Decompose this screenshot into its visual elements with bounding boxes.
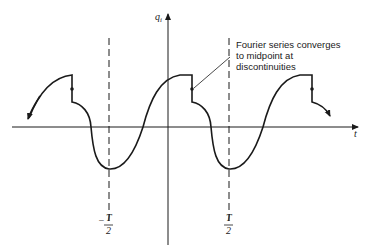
svg-text:T: T — [106, 212, 113, 223]
x-axis-label: t — [354, 128, 357, 139]
marker-neg-half-period: − T 2 — [98, 212, 113, 236]
annotation-leader — [194, 57, 230, 88]
annotation-text: Fourier series converges to midpoint at … — [236, 39, 343, 72]
midpoint-dot — [70, 87, 74, 91]
svg-text:T: T — [226, 212, 233, 223]
waveform-start-arrow — [28, 96, 40, 119]
waveform-segment-1 — [29, 75, 330, 169]
fourier-figure: qi t − T 2 T 2 Fourier series converges … — [0, 0, 369, 248]
midpoint-dot — [190, 87, 194, 91]
svg-text:2: 2 — [226, 225, 231, 236]
svg-text:−: − — [98, 215, 105, 226]
midpoint-dot — [310, 87, 314, 91]
marker-pos-half-period: T 2 — [224, 212, 233, 236]
y-axis-label: qi — [155, 11, 162, 24]
svg-text:2: 2 — [106, 225, 111, 236]
